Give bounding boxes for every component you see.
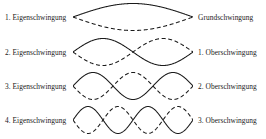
mode-label-right-1: Grundschwingung: [198, 0, 264, 34]
mode-row-3: 3. Eigenschwingung 2. Oberschwingung: [0, 69, 266, 103]
wave-plot-2: [73, 35, 193, 69]
wave-svg-4: [73, 103, 193, 137]
mode-row-2: 2. Eigenschwingung 1. Oberschwingung: [0, 35, 266, 69]
wave-curve-solid-1: [73, 4, 193, 18]
wave-svg-2: [73, 35, 193, 69]
mode-label-left-3: 3. Eigenschwingung: [5, 69, 71, 103]
mode-label-right-3: 2. Oberschwingung: [198, 69, 264, 103]
mode-row-4: 4. Eigenschwingung 3. Oberschwingung: [0, 103, 266, 137]
wave-plot-3: [73, 69, 193, 103]
mode-label-right-4: 3. Oberschwingung: [198, 103, 264, 137]
wave-curve-dashed-1: [73, 17, 193, 31]
wave-plot-4: [73, 103, 193, 137]
mode-label-left-4: 4. Eigenschwingung: [5, 103, 71, 137]
wave-curve-solid-3: [73, 73, 193, 100]
wave-curve-dashed-2: [73, 39, 193, 66]
wave-curve-dashed-3: [73, 73, 193, 100]
wave-svg-1: [73, 0, 193, 34]
wave-curve-solid-4: [73, 107, 193, 134]
mode-label-right-2: 1. Oberschwingung: [198, 35, 264, 69]
mode-label-left-1: 1. Eigenschwingung: [5, 0, 71, 34]
mode-label-left-2: 2. Eigenschwingung: [5, 35, 71, 69]
wave-svg-3: [73, 69, 193, 103]
wave-plot-1: [73, 0, 193, 34]
mode-row-1: 1. Eigenschwingung Grundschwingung: [0, 0, 266, 34]
eigenschwingungen-figure: 1. Eigenschwingung Grundschwingung 2. Ei…: [0, 0, 266, 139]
